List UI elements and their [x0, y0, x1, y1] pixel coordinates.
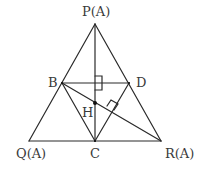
point-c-dot	[94, 140, 96, 142]
geometry-diagram: P(A) B D H Q(A) C R(A)	[0, 0, 210, 170]
label-p: P(A)	[82, 4, 110, 19]
label-d: D	[136, 75, 146, 90]
label-r: R(A)	[165, 146, 194, 161]
label-c: C	[90, 146, 100, 161]
label-q: Q(A)	[16, 146, 46, 161]
point-h-dot	[93, 101, 97, 105]
label-h: H	[82, 105, 93, 120]
point-b-dot	[61, 82, 63, 84]
segment-br	[62, 83, 161, 141]
label-b: B	[48, 75, 58, 90]
point-d-dot	[128, 82, 130, 84]
